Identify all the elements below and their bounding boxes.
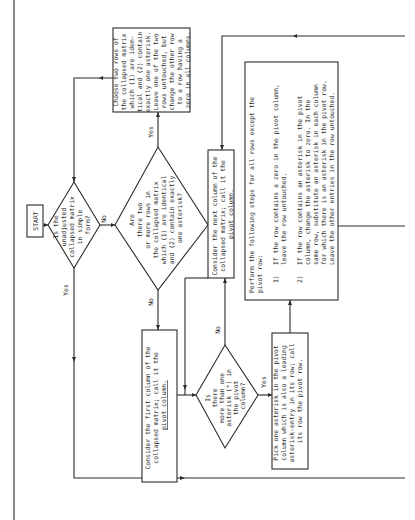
label-no-1: No (100, 215, 108, 223)
svg-text:START: START (32, 211, 40, 230)
decision-identical-rows: Are there two or more rows in the collap… (115, 147, 208, 290)
label-no-2: No (147, 298, 155, 306)
decision-simple-form: Is the unadjusted collapsed matrix in si… (48, 182, 100, 268)
label-no-3: No (214, 326, 222, 334)
box-first-column: Consider the first column of the collaps… (142, 330, 177, 482)
decision-more-than-one-asterisk: Is there more than one asterisk (*) in t… (196, 345, 258, 448)
svg-text:Choose two rows of the c: Choose two rows of the collapsed matrix … (112, 28, 192, 113)
label-yes-2: Yes (147, 126, 155, 138)
box-pick-asterisk: Pick one asterisk in the pivot column wh… (272, 333, 308, 469)
label-yes-1: Yes (62, 284, 70, 296)
box-perform-steps: Perform the following steps for all rows… (245, 62, 338, 300)
start-node: START (27, 205, 43, 237)
box-choose-two-rows: Choose two rows of the collapsed matrix … (112, 28, 192, 113)
label-yes-3: Yes (260, 376, 268, 388)
flowchart-page: START Is the unadjusted collapsed matrix… (0, 0, 415, 520)
box-next-column: Consider the next column of the collapse… (208, 150, 235, 278)
